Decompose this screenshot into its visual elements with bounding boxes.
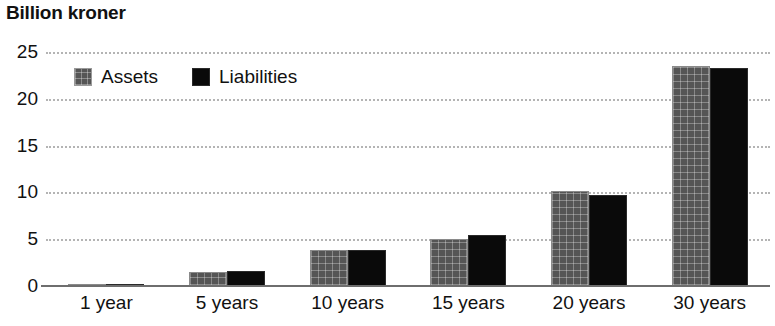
legend-item-liabilities: Liabilities: [192, 66, 297, 88]
bar-liabilities-30-years: [710, 68, 748, 286]
bar-liabilities-20-years: [589, 195, 627, 286]
bar-assets-10-years: [310, 250, 348, 286]
y-axis-tick-label: 25: [0, 41, 38, 63]
chart-legend: Assets Liabilities: [74, 66, 297, 88]
x-axis-tick-label: 30 years: [673, 292, 746, 314]
legend-label-liabilities: Liabilities: [219, 66, 297, 88]
x-axis-baseline: [41, 285, 770, 287]
bar-assets-5-years: [189, 272, 227, 286]
gridline: [46, 52, 770, 54]
gridline: [46, 192, 770, 194]
gridline: [46, 239, 770, 241]
x-axis-tick-label: 20 years: [553, 292, 626, 314]
chart-title: Billion kroner: [6, 2, 126, 24]
legend-item-assets: Assets: [74, 66, 158, 88]
bar-assets-15-years: [430, 239, 468, 286]
y-axis-tick-label: 15: [0, 135, 38, 157]
gridline: [46, 99, 770, 101]
x-axis-tick-label: 1 year: [80, 292, 133, 314]
y-axis-tick-label: 20: [0, 88, 38, 110]
y-axis-tick-label: 5: [0, 228, 38, 250]
legend-label-assets: Assets: [101, 66, 158, 88]
assets-swatch-icon: [74, 68, 92, 86]
y-axis-tick-label: 10: [0, 181, 38, 203]
x-axis-tick-label: 15 years: [432, 292, 505, 314]
bar-assets-30-years: [672, 66, 710, 286]
y-axis-tick-label: 0: [0, 275, 38, 297]
bar-group: [672, 52, 748, 286]
y-axis: 0510152025: [0, 52, 38, 286]
x-axis-tick-label: 10 years: [311, 292, 384, 314]
bar-liabilities-5-years: [227, 271, 265, 286]
gridline: [46, 146, 770, 148]
bar-liabilities-15-years: [468, 235, 506, 286]
bar-group: [551, 52, 627, 286]
bar-group: [310, 52, 386, 286]
x-axis: 1 year5 years10 years15 years20 years30 …: [46, 292, 770, 322]
bar-group: [430, 52, 506, 286]
bar-assets-20-years: [551, 191, 589, 286]
x-axis-tick-label: 5 years: [196, 292, 258, 314]
bar-liabilities-10-years: [348, 250, 386, 287]
liabilities-swatch-icon: [192, 68, 210, 86]
bar-chart: Billion kroner 0510152025 1 year5 years1…: [0, 0, 775, 326]
